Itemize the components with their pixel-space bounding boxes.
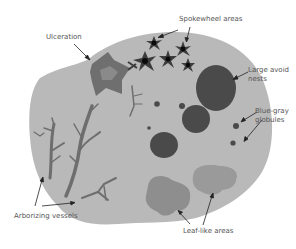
- label-large-ovoid-nests-line2: nests: [248, 75, 267, 83]
- dermoscopy-diagram: Ulceration Spokewheel areas Large avoid …: [0, 0, 296, 249]
- label-leaf-like-areas: Leaf-like areas: [183, 227, 233, 235]
- label-arborizing-vessels: Arborizing vessels: [14, 212, 78, 220]
- label-ulceration: Ulceration: [46, 33, 82, 41]
- label-spokewheel-areas: Spokewheel areas: [179, 15, 242, 23]
- label-large-ovoid-nests-line1: Large avoid: [248, 66, 289, 74]
- label-blue-gray-globules-line1: Blue-gray: [255, 107, 289, 115]
- label-blue-gray-globules-line2: globules: [255, 116, 284, 124]
